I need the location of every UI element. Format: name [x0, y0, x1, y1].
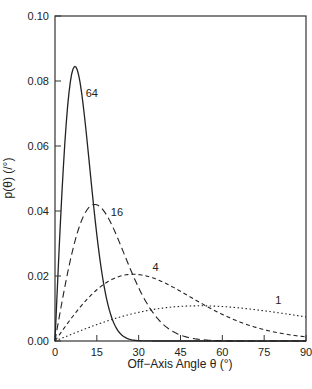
curve-label-1: 1 — [275, 294, 281, 306]
plot-border — [55, 16, 306, 341]
x-axis-ticks: 0153045607590 — [52, 335, 312, 358]
curve-labels: 641641 — [86, 87, 282, 305]
y-tick-label: 0.04 — [28, 205, 49, 217]
x-axis-title: Off−Axis Angle θ (°) — [128, 357, 233, 371]
y-tick-label: 0.06 — [28, 140, 49, 152]
x-tick-label: 90 — [300, 346, 312, 358]
curve-64 — [55, 66, 306, 341]
x-tick-label: 0 — [52, 346, 58, 358]
y-tick-label: 0.08 — [28, 75, 49, 87]
curve-16 — [55, 204, 306, 341]
curve-4 — [55, 274, 306, 341]
y-tick-label: 0.02 — [28, 270, 49, 282]
curve-label-4: 4 — [153, 261, 159, 273]
plot-frame — [55, 16, 306, 341]
y-axis-ticks: 0.000.020.040.060.080.10 — [28, 10, 61, 347]
curve-label-16: 16 — [111, 206, 123, 218]
curve-label-64: 64 — [86, 87, 98, 99]
y-tick-label: 0.00 — [28, 335, 49, 347]
y-axis-title: p(θ) (/°) — [1, 158, 15, 199]
x-tick-label: 75 — [258, 346, 270, 358]
y-tick-label: 0.10 — [28, 10, 49, 22]
chart: 641641 0153045607590 0.000.020.040.060.0… — [0, 0, 312, 389]
x-tick-label: 15 — [91, 346, 103, 358]
curves — [55, 66, 306, 341]
